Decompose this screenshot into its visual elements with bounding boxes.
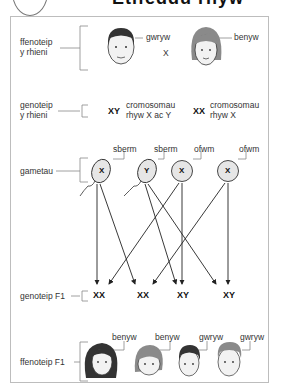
fertilisation-arrows	[97, 183, 228, 284]
female-genotype: XX	[193, 106, 205, 116]
label-f1-genotype: genoteip F1	[20, 291, 65, 301]
label-f1-phenotype: ffenoteip F1	[20, 357, 65, 367]
f1-sex-label: benyw	[112, 332, 137, 342]
label-line: y rhieni	[20, 47, 52, 57]
female-chromosome-note: cromosomau rhyw X	[210, 100, 259, 120]
male-chromosome-note: cromosomau rhyw X ac Y	[126, 100, 175, 120]
f1-face-3	[179, 345, 200, 376]
gamete-chromosome: X	[99, 166, 104, 175]
female-sex-label: benyw	[234, 32, 259, 42]
cross-symbol: X	[163, 48, 169, 58]
gamete-chromosome: X	[179, 166, 184, 175]
f1-face-1	[85, 343, 118, 378]
f1-sex-label: gwryw	[240, 332, 264, 342]
label-parents-genotype: genoteip y rhieni	[20, 100, 53, 120]
note-line: rhyw X	[210, 110, 259, 120]
gamete-sperm-y	[124, 157, 160, 196]
gamete-type-label: ofwm	[194, 144, 214, 154]
label-gametes: gametau	[20, 166, 53, 176]
f1-face-2	[135, 345, 163, 375]
f1-sex-label: gwryw	[199, 332, 223, 342]
label-line: y rhieni	[20, 110, 53, 120]
gamete-type-label: sberm	[154, 144, 178, 154]
f1-sex-label: benyw	[155, 332, 180, 342]
gamete-chromosome: Y	[144, 166, 149, 175]
f1-genotype: XY	[177, 290, 189, 300]
label-parents-phenotype: ffenoteip y rhieni	[20, 37, 52, 57]
male-parent-face	[108, 28, 134, 64]
f1-genotype: XX	[93, 290, 105, 300]
male-sex-label: gwryw	[146, 32, 170, 42]
gamete-type-label: sberm	[113, 144, 137, 154]
gamete-chromosome: X	[225, 166, 230, 175]
note-line: cromosomau	[126, 100, 175, 110]
male-genotype: XY	[108, 106, 120, 116]
f1-face-4	[218, 342, 242, 376]
female-parent-face	[191, 27, 221, 65]
f1-genotype: XX	[137, 290, 149, 300]
note-line: cromosomau	[210, 100, 259, 110]
f1-genotype: XY	[223, 290, 235, 300]
gamete-type-label: ofwm	[239, 144, 259, 154]
label-line: genoteip	[20, 100, 53, 110]
note-line: rhyw X ac Y	[126, 110, 175, 120]
label-line: ffenoteip	[20, 37, 52, 47]
row-brackets	[56, 26, 250, 381]
